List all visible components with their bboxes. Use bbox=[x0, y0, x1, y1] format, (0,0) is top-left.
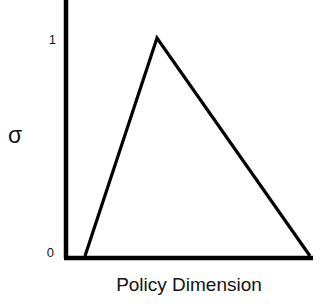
x-axis-title: Policy Dimension bbox=[64, 274, 314, 295]
y-tick-label-1: 1 bbox=[30, 33, 56, 46]
chart-figure: 1 0 σ Policy Dimension bbox=[0, 0, 324, 304]
y-tick-label-0: 0 bbox=[28, 246, 54, 259]
y-axis-title: σ bbox=[8, 124, 34, 147]
